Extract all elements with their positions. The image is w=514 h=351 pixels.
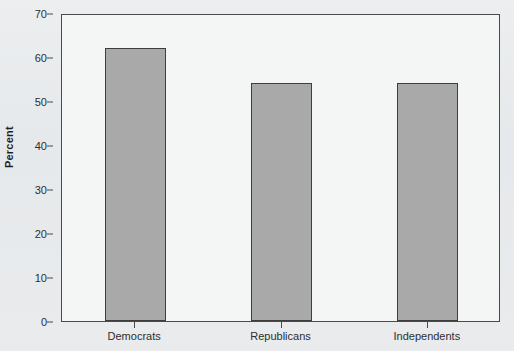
y-axis-tick-mark (47, 146, 53, 147)
bar-democrats[interactable] (105, 48, 166, 321)
y-axis-tick-mark (47, 102, 53, 103)
y-axis-tick-label: 70 (35, 8, 47, 20)
y-axis-tick-label: 20 (35, 228, 47, 240)
y-axis-tick-label: 10 (35, 272, 47, 284)
y-axis-tick-label: 50 (35, 96, 47, 108)
y-axis-tick-mark (47, 58, 53, 59)
y-axis: 010203040506070 (0, 0, 61, 351)
x-axis-tick-mark (281, 322, 282, 328)
y-axis-tick-mark (47, 14, 53, 15)
y-axis-tick-mark (47, 234, 53, 235)
x-axis-tick-mark (134, 322, 135, 328)
bar-republicans[interactable] (251, 83, 312, 321)
x-axis-tick-mark (427, 322, 428, 328)
x-axis-label-republicans: Republicans (250, 330, 311, 342)
y-axis-tick-label: 30 (35, 184, 47, 196)
x-axis-label-democrats: Democrats (108, 330, 161, 342)
plot-area (62, 15, 499, 321)
y-axis-tick-label: 60 (35, 52, 47, 64)
y-axis-tick-mark (47, 278, 53, 279)
y-axis-tick-mark (47, 190, 53, 191)
x-axis-label-independents: Independents (393, 330, 460, 342)
y-axis-tick-mark (47, 322, 53, 323)
bar-independents[interactable] (397, 83, 458, 321)
y-axis-tick-label: 40 (35, 140, 47, 152)
plot-frame (61, 14, 500, 322)
